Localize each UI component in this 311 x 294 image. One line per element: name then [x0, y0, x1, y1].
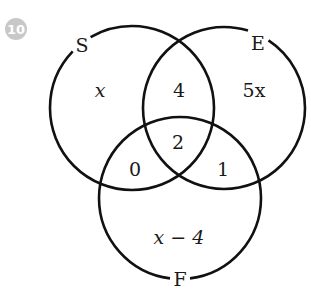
region-f-only: x − 4: [154, 226, 205, 248]
set-e-label: E: [251, 32, 265, 54]
question-number-badge: 10: [5, 18, 27, 40]
set-f-label: F: [173, 268, 186, 290]
region-e-and-f: 1: [217, 158, 229, 180]
region-s-and-f: 0: [129, 158, 141, 180]
venn-diagram: 10 S E F x 4 5x 2 0 1 x − 4: [0, 0, 311, 294]
question-number: 10: [7, 22, 25, 37]
region-s-only: x: [95, 79, 106, 101]
region-e-only: 5x: [243, 79, 266, 101]
set-s-label: S: [75, 34, 88, 56]
region-s-and-e: 4: [173, 79, 185, 101]
region-all-three: 2: [172, 131, 184, 153]
